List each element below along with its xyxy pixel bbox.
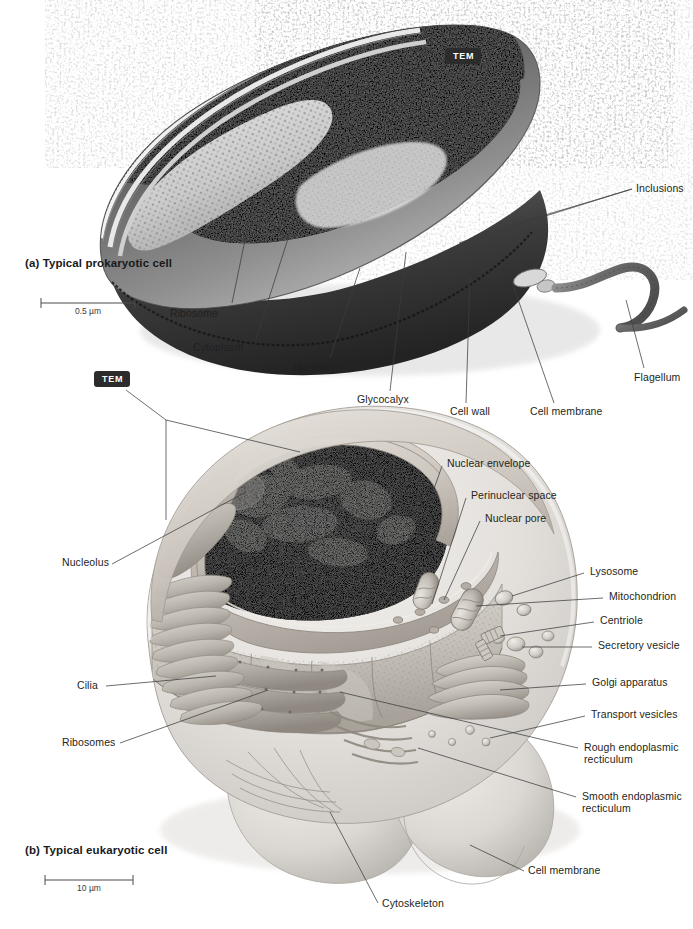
label-cell-wall: Cell wall <box>450 406 490 418</box>
scale-bar-b-label: 10 µm <box>45 883 133 893</box>
label-mitochondrion: Mitochondrion <box>609 591 676 603</box>
label-transport-vesicles: Transport vesicles <box>591 709 678 721</box>
label-lysosome: Lysosome <box>590 566 638 578</box>
label-cell-membrane-a: Cell membrane <box>530 406 603 418</box>
label-centriole: Centriole <box>600 615 643 627</box>
label-glycocalyx: Glycocalyx <box>357 394 409 406</box>
panel-b-caption: (b) Typical eukaryotic cell <box>25 844 167 856</box>
figure-page: TEM TEM (a) Typical prokaryotic cell 0.5… <box>0 0 693 929</box>
label-nuclear-pore: Nuclear pore <box>485 513 546 525</box>
tem-badge-eukaryote: TEM <box>94 371 130 387</box>
label-flagellum: Flagellum <box>634 372 680 384</box>
leader-tem-b-stem <box>126 390 166 420</box>
leader-flagellum <box>626 300 644 368</box>
prokaryotic-cell-illustration <box>80 9 684 403</box>
panel-a-caption: (a) Typical prokaryotic cell <box>25 257 172 269</box>
label-nucleoid: Nucleoid <box>293 362 335 374</box>
label-inclusions: Inclusions <box>636 183 684 195</box>
label-cell-membrane-b: Cell membrane <box>528 865 601 877</box>
label-smooth-er: Smooth endoplasmic recticulum <box>582 791 682 814</box>
label-cilia: Cilia <box>77 680 98 692</box>
label-perinuclear-space: Perinuclear space <box>471 490 557 502</box>
label-nuclear-envelope: Nuclear envelope <box>447 458 530 470</box>
label-ribosomes: Ribosomes <box>62 737 115 749</box>
label-cytoskeleton: Cytoskeleton <box>382 898 444 910</box>
label-golgi-apparatus: Golgi apparatus <box>592 677 668 689</box>
label-cytoplasm: Cytoplasm <box>193 342 244 354</box>
label-rough-er: Rough endoplasmic recticulum <box>584 742 679 765</box>
label-ribosome: Ribosome <box>170 308 218 320</box>
label-nucleolus: Nucleolus <box>62 557 109 569</box>
tem-badge-prokaryote: TEM <box>445 48 481 64</box>
scale-bar-a-label: 0.5 µm <box>41 306 135 316</box>
label-secretory-vesicle: Secretory vesicle <box>598 640 680 652</box>
